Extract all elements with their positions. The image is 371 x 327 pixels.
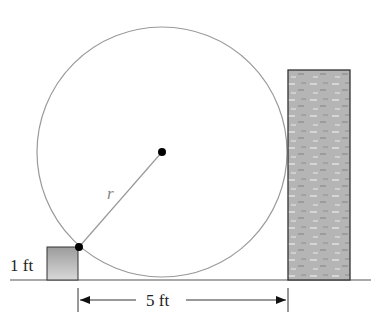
arrowhead-right (276, 296, 286, 304)
contact-point (75, 243, 83, 251)
wall (288, 70, 350, 280)
distance-label: 5 ft (146, 292, 169, 309)
small-box (47, 247, 78, 280)
radius-line (79, 152, 162, 247)
center-point (158, 148, 166, 156)
diagram-canvas (0, 0, 371, 327)
radius-label: r (107, 185, 114, 202)
box-height-label: 1 ft (10, 257, 33, 274)
arrowhead-left (80, 296, 90, 304)
